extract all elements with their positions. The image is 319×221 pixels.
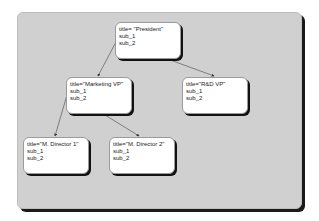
node-sub-1: sub_1	[113, 148, 174, 155]
node-sub-2: sub_2	[27, 155, 88, 162]
node-sub-1: sub_1	[186, 88, 247, 95]
node-sub-2: sub_2	[119, 40, 180, 47]
node-president[interactable]: title= "President" sub_1 sub_2	[115, 22, 181, 59]
node-m-director-1[interactable]: title="M. Director 1" sub_1 sub_2	[23, 137, 89, 174]
node-marketing-vp[interactable]: title="Marketing VP" sub_1 sub_2	[66, 77, 132, 114]
node-sub-2: sub_2	[70, 95, 131, 102]
node-rnd-vp[interactable]: title="R&D VP" sub_1 sub_2	[182, 77, 248, 114]
node-title: title="M. Director 1"	[27, 141, 88, 148]
node-title: title="M. Director 2"	[113, 141, 174, 148]
node-m-director-2[interactable]: title="M. Director 2" sub_1 sub_2	[109, 137, 175, 174]
node-title: title= "President"	[119, 26, 180, 33]
node-sub-2: sub_2	[186, 95, 247, 102]
node-sub-1: sub_1	[70, 88, 131, 95]
node-sub-2: sub_2	[113, 155, 174, 162]
node-sub-1: sub_1	[27, 148, 88, 155]
node-sub-1: sub_1	[119, 33, 180, 40]
node-title: title="Marketing VP"	[70, 81, 131, 88]
node-title: title="R&D VP"	[186, 81, 247, 88]
